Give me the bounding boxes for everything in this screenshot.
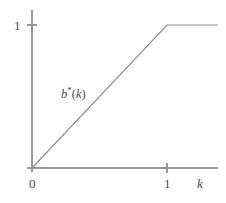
function-plot-figure: 1 0 1 k b*(k): [0, 0, 226, 203]
x-axis-variable-label: k: [197, 177, 203, 190]
plot-canvas: [0, 0, 226, 203]
b-star-function-curve: [32, 25, 218, 168]
origin-label: 0: [29, 177, 36, 190]
y-axis-tick-label-one: 1: [14, 19, 21, 32]
curve-label-arg-var: k: [76, 87, 82, 101]
curve-label-arg: (k): [72, 87, 86, 101]
curve-annotation-b-star-k: b*(k): [61, 86, 86, 101]
x-axis-tick-label-one: 1: [164, 177, 171, 190]
